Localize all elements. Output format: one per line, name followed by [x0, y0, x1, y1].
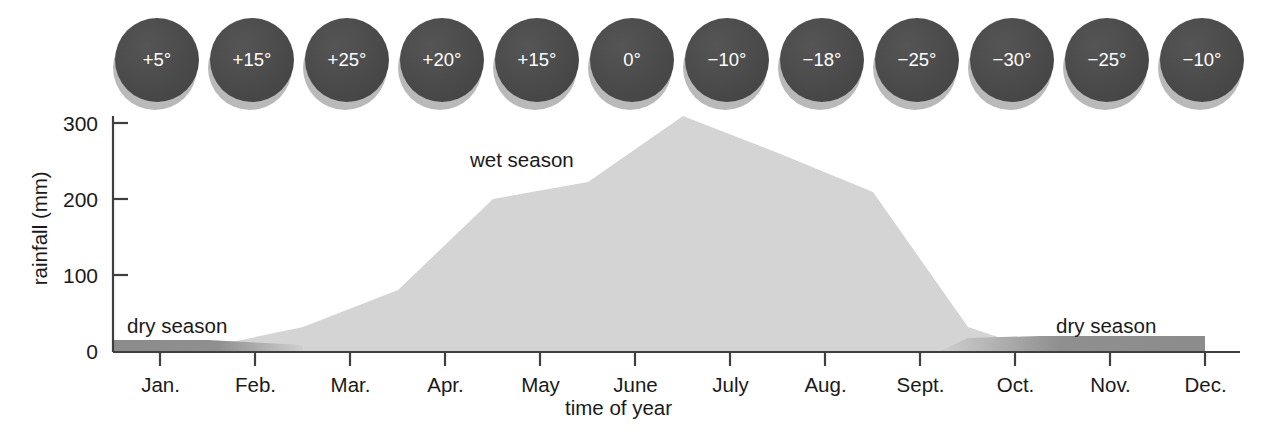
x-axis-title: time of year: [565, 398, 672, 419]
x-tick-label-may: May: [493, 375, 588, 396]
x-tick-label-jan: Jan.: [113, 375, 208, 396]
dry-season-band-right: [940, 336, 1205, 351]
x-tick-label-mar: Mar.: [303, 375, 398, 396]
x-tick-label-aug: Aug.: [778, 375, 873, 396]
climate-chart-figure: +5° +15° +25° +20° +15°: [0, 0, 1287, 435]
rainfall-area-fill: [113, 116, 1205, 351]
y-axis-title: rainfall (mm): [30, 143, 51, 313]
x-tick-label-june: June: [588, 375, 683, 396]
x-tick-label-feb: Feb.: [208, 375, 303, 396]
y-tick-label-0: 0: [38, 341, 98, 362]
y-tick-label-300: 300: [38, 113, 98, 134]
x-tick-label-oct: Oct.: [968, 375, 1063, 396]
x-tick-label-nov: Nov.: [1063, 375, 1158, 396]
rainfall-area-plot: [0, 0, 1287, 435]
plot-area: 300 200 100 0 rainfall (mm) Jan. Feb. Ma…: [0, 0, 1287, 435]
annotation-dry-season-left: dry season: [127, 316, 227, 337]
x-tick-label-sept: Sept.: [873, 375, 968, 396]
annotation-wet-season: wet season: [470, 150, 574, 171]
x-tick-label-july: July: [683, 375, 778, 396]
annotation-dry-season-right: dry season: [1056, 316, 1156, 337]
x-tick-label-apr: Apr.: [398, 375, 493, 396]
x-tick-label-dec: Dec.: [1158, 375, 1253, 396]
